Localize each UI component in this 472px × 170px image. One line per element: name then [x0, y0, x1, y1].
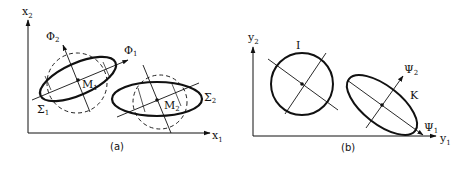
- sigma1-label: Σ1: [37, 103, 49, 117]
- panel-a: x2 x1 M1 Σ1 Φ2 Φ1 M2 Σ2: [22, 5, 223, 152]
- shape-i: I: [268, 39, 338, 115]
- m1-label: M1: [82, 78, 98, 92]
- mean-point-m2: [155, 98, 159, 102]
- tick-line: [138, 88, 145, 112]
- panel-b-axes: y2 y1: [247, 31, 451, 147]
- y1-axis-label: y1: [439, 132, 451, 147]
- center-point-i: [300, 82, 304, 86]
- i-label: I: [296, 39, 300, 52]
- cluster-sigma-1: M1 Σ1 Φ2 Φ1: [32, 30, 138, 117]
- m2-label: M2: [164, 99, 180, 113]
- y2-axis-label: y2: [247, 31, 259, 46]
- phi2-label: Φ2: [46, 30, 60, 44]
- k-label: K: [410, 89, 419, 102]
- psi1-label: Ψ1: [424, 121, 438, 135]
- center-point-k: [380, 103, 384, 107]
- diagram: x2 x1 M1 Σ1 Φ2 Φ1 M2 Σ2: [0, 0, 472, 170]
- caption-a: (a): [110, 141, 124, 152]
- phi1-label: Φ1: [124, 44, 138, 58]
- caption-b: (b): [341, 142, 355, 153]
- panel-b: y2 y1 I K Ψ2 Ψ1 (b): [247, 31, 451, 153]
- sigma2-label: Σ2: [204, 91, 216, 105]
- shape-k: K Ψ2 Ψ1: [337, 63, 438, 146]
- circle-axis-2: [285, 53, 326, 114]
- x2-axis-label: x2: [22, 5, 33, 20]
- x1-axis-label: x1: [212, 129, 223, 144]
- mean-point-m1: [76, 78, 80, 82]
- cluster-sigma-2: M2 Σ2: [112, 65, 216, 133]
- psi2-label: Ψ2: [404, 63, 418, 77]
